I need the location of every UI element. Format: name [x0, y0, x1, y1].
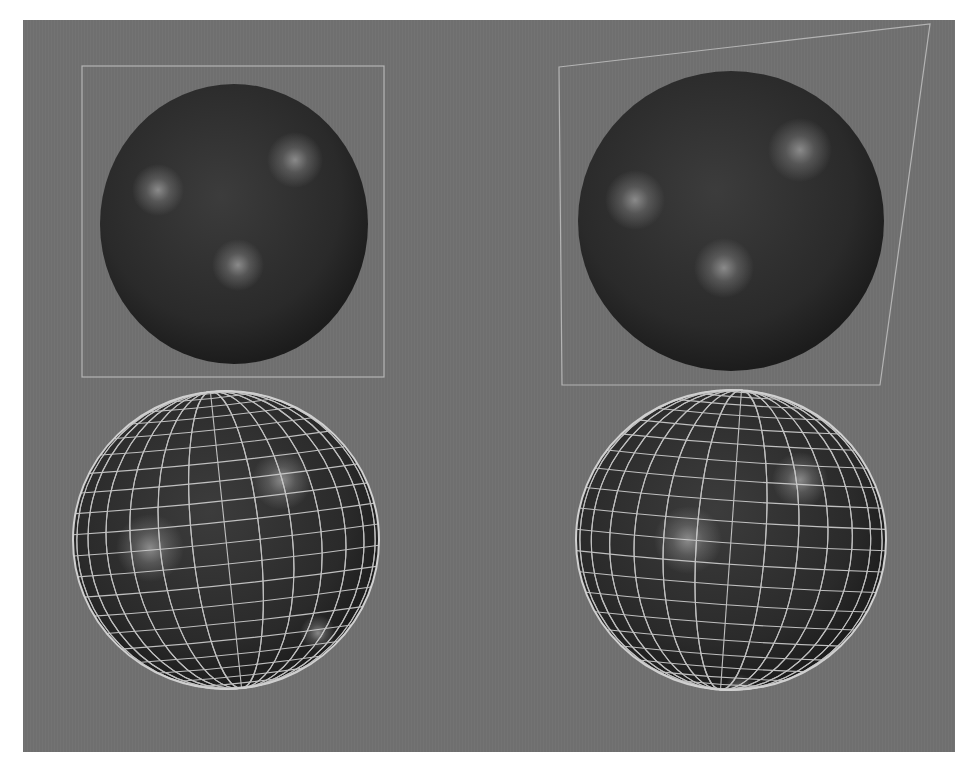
render-canvas	[0, 0, 959, 765]
sphere-shaded-right	[578, 71, 884, 371]
sphere-shaded-left	[100, 84, 368, 364]
